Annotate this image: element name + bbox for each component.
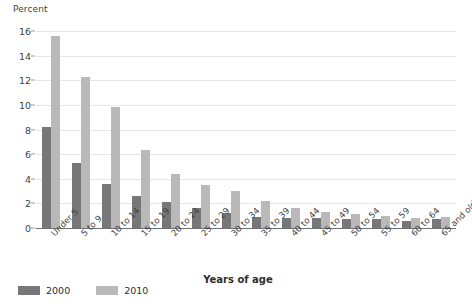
bar-2000 (42, 127, 51, 228)
x-axis-tick-cell: 35 to 39 (246, 229, 276, 279)
legend-swatch-icon (96, 286, 118, 295)
y-axis-tick-label: 0 (5, 223, 31, 234)
x-axis-tick-cell: 25 to 29 (186, 229, 216, 279)
bar-group (186, 31, 216, 228)
y-axis-tick-mark (31, 203, 35, 204)
x-axis-tick-cell: 45 to 49 (306, 229, 336, 279)
bar-groups (36, 31, 456, 228)
y-axis-tick-label: 2 (5, 198, 31, 209)
bar-group (336, 31, 366, 228)
x-axis-tick-cell: 5 to 9 (66, 229, 96, 279)
x-axis-tick-cell: Under 5 (36, 229, 66, 279)
bar-group (276, 31, 306, 228)
x-axis-tick-cell: 55 to 59 (366, 229, 396, 279)
legend-item-2010[interactable]: 2010 (96, 285, 148, 296)
x-axis-tick-cell: 40 to 44 (276, 229, 306, 279)
x-axis-tick-cell: 65 and older (426, 229, 456, 279)
legend-label: 2000 (46, 285, 70, 296)
plot-area (36, 31, 456, 228)
bar-2010 (141, 150, 150, 228)
bar-2010 (51, 36, 60, 228)
legend-label: 2010 (124, 285, 148, 296)
bar-chart: Percent 0246810121416 Under 55 to 910 to… (0, 0, 472, 306)
x-axis-title-text: Years of age (203, 274, 273, 285)
bar-group (366, 31, 396, 228)
bar-group (126, 31, 156, 228)
y-axis-tick-mark (31, 31, 35, 32)
bar-2010 (111, 107, 120, 228)
x-axis-tick-labels: Under 55 to 910 to 1415 to 1920 to 2425 … (36, 229, 456, 279)
bar-group (396, 31, 426, 228)
y-axis-tick-label: 8 (5, 124, 31, 135)
bar-2010 (81, 77, 90, 228)
x-axis-tick-cell: 20 to 24 (156, 229, 186, 279)
bar-group (36, 31, 66, 228)
y-axis-tick-label: 16 (5, 26, 31, 37)
legend-swatch-icon (18, 286, 40, 295)
y-axis-unit-label: Percent (13, 4, 48, 14)
bar-group (246, 31, 276, 228)
bar-group (216, 31, 246, 228)
bar-group (306, 31, 336, 228)
x-axis-tick-cell: 50 to 54 (336, 229, 366, 279)
y-axis-tick-mark (31, 129, 35, 130)
bar-group (96, 31, 126, 228)
y-axis-tick-mark (31, 55, 35, 56)
x-axis-tick-cell: 30 to 34 (216, 229, 246, 279)
legend-item-2000[interactable]: 2000 (18, 285, 70, 296)
y-axis-tick-mark (31, 228, 35, 229)
x-axis-title: Years of age (0, 274, 472, 285)
y-axis-tick-label: 14 (5, 50, 31, 61)
bar-2000 (102, 184, 111, 228)
y-axis-tick-label: 12 (5, 75, 31, 86)
bar-group (66, 31, 96, 228)
y-axis-tick-mark (31, 154, 35, 155)
bar-2000 (402, 221, 411, 228)
chart-legend: 20002010 (18, 285, 148, 296)
bar-group (156, 31, 186, 228)
bar-group (426, 31, 456, 228)
y-axis-tick-label: 6 (5, 149, 31, 160)
y-axis-tick-label: 4 (5, 173, 31, 184)
x-axis-tick-cell: 60 to 64 (396, 229, 426, 279)
x-axis-tick-cell: 15 to 19 (126, 229, 156, 279)
y-axis-tick-mark (31, 80, 35, 81)
y-axis-tick-label: 10 (5, 99, 31, 110)
x-axis-tick-cell: 10 to 14 (96, 229, 126, 279)
y-axis-tick-mark (31, 104, 35, 105)
y-axis-tick-mark (31, 178, 35, 179)
